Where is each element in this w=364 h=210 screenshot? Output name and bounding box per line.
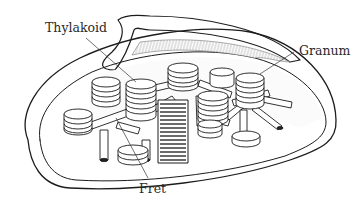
granum-stack-center-left bbox=[126, 79, 156, 121]
thylakoid-label: Thylakoid bbox=[45, 22, 107, 35]
fret-label: Fret bbox=[139, 183, 166, 196]
granum-stack-left bbox=[64, 109, 92, 135]
granum-label: Granum bbox=[299, 45, 350, 58]
granum-disc-lower-right bbox=[232, 131, 260, 147]
granum-stack-far-right bbox=[210, 68, 234, 88]
granum-stack-top-center bbox=[168, 63, 198, 91]
granum-stack-upper-left bbox=[92, 77, 120, 107]
granum-stack-right bbox=[236, 73, 264, 109]
granum-disc-center-lower bbox=[198, 120, 222, 138]
granum-disc-lower-left bbox=[118, 145, 148, 165]
sectioned-granum bbox=[158, 100, 188, 163]
